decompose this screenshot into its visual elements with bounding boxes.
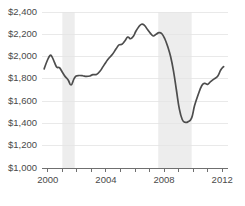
y-axis-tick-label: $1,400 <box>8 117 37 128</box>
y-axis-tick-label: $1,200 <box>8 139 37 150</box>
x-axis-tick-label: 2012 <box>212 174 233 185</box>
y-axis-tick-label: $1,800 <box>8 72 37 83</box>
y-axis-tick-label: $1,600 <box>8 95 37 106</box>
x-axis-tick-label: 2000 <box>37 174 58 185</box>
chart-container: $2,400$2,200$2,000$1,800$1,600$1,400$1,2… <box>0 0 245 206</box>
recession-band <box>62 12 74 168</box>
x-axis-tick-label: 2008 <box>153 174 174 185</box>
y-axis-tick-label: $2,000 <box>8 50 37 61</box>
line-chart: $2,400$2,200$2,000$1,800$1,600$1,400$1,2… <box>0 0 245 206</box>
x-axis-tick-label: 2004 <box>95 174 116 185</box>
y-axis-tick-label: $2,200 <box>8 28 37 39</box>
y-axis-tick-label: $1,000 <box>8 162 37 173</box>
y-axis-tick-label: $2,400 <box>8 6 37 17</box>
